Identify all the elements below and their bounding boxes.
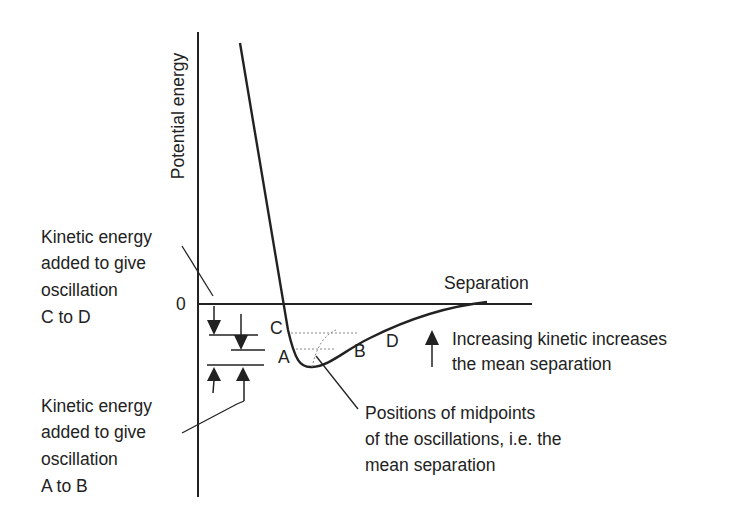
- zero-label: 0: [176, 293, 186, 315]
- leader-midpoints: [316, 356, 358, 409]
- point-d: D: [386, 330, 399, 352]
- x-axis-label: Separation: [444, 272, 529, 294]
- down-arrow-icon: [207, 320, 221, 335]
- leader-ke-ab: [182, 401, 244, 433]
- y-axis-label: Potential energy: [168, 53, 189, 179]
- point-b: B: [354, 340, 366, 362]
- down-arrow-icon: [234, 335, 248, 350]
- up-arrow-icon: [207, 367, 221, 381]
- up-arrow-icon: [425, 330, 439, 345]
- point-a: A: [278, 346, 290, 368]
- point-c: C: [270, 317, 283, 339]
- up-arrow-icon: [236, 367, 250, 381]
